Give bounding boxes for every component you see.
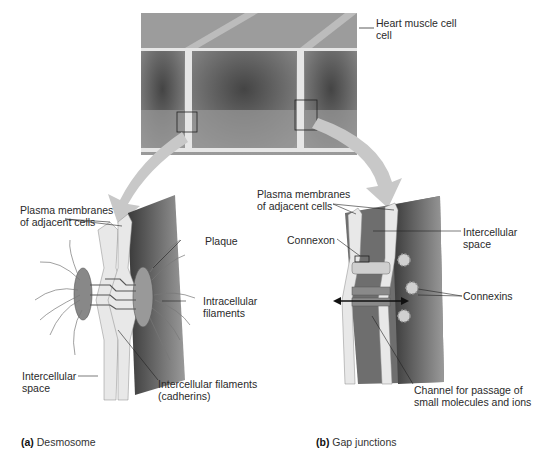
caption-letter-b: (b) bbox=[316, 436, 329, 448]
label-desmosome-membranes-2: of adjacent cells bbox=[20, 216, 95, 228]
gap-junction-illustration bbox=[333, 196, 462, 384]
label-heart-muscle-cell-line2: cell bbox=[376, 29, 392, 41]
label-gap-intercellular-space: Intercellular bbox=[463, 226, 517, 238]
label-desmosome-intercellular-space: Intercellular bbox=[22, 370, 76, 382]
label-desmosome-intercellular-space-2: space bbox=[22, 382, 50, 394]
label-cadherins: Intercellular filaments bbox=[158, 378, 257, 390]
label-channel-2: small molecules and ions bbox=[414, 396, 531, 408]
caption-gap-junctions: (b) Gap junctions bbox=[316, 436, 397, 448]
label-gap-intercellular-space-2: space bbox=[463, 238, 491, 250]
label-intracellular-filaments: Intracellular bbox=[203, 295, 257, 307]
label-intracellular-filaments-2: filaments bbox=[203, 307, 245, 319]
caption-letter-a: (a) bbox=[21, 436, 34, 448]
label-desmosome-membranes: Plasma membranes bbox=[20, 204, 113, 216]
label-connexins: Connexins bbox=[463, 290, 513, 302]
label-plaque: Plaque bbox=[205, 235, 238, 247]
label-channel: Channel for passage of bbox=[414, 384, 523, 396]
label-gap-membranes-2: of adjacent cells bbox=[257, 200, 332, 212]
caption-text-a: Desmosome bbox=[37, 436, 96, 448]
caption-desmosome: (a) Desmosome bbox=[21, 436, 96, 448]
caption-text-b: Gap junctions bbox=[332, 436, 396, 448]
label-heart-muscle-cell: Heart muscle cell bbox=[376, 17, 457, 29]
label-cadherins-2: (cadherins) bbox=[158, 390, 211, 402]
label-gap-membranes: Plasma membranes bbox=[257, 188, 350, 200]
label-connexon: Connexon bbox=[287, 234, 335, 246]
